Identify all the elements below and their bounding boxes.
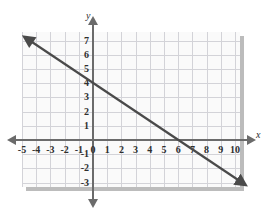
y-tick-label: -3: [75, 178, 89, 188]
x-axis-right-arrow-icon: [247, 135, 256, 145]
grid-line-horizontal: [22, 83, 240, 84]
y-axis-bottom-arrow-icon: [88, 199, 98, 208]
grid-line-horizontal: [22, 55, 240, 56]
grid-line-horizontal: [22, 97, 240, 98]
x-axis-label: x: [256, 130, 260, 140]
y-axis-line: [92, 24, 94, 200]
grid-line-horizontal: [22, 126, 240, 127]
y-tick-label: 5: [75, 64, 89, 74]
y-tick-label: 1: [75, 121, 89, 131]
coordinate-plane-figure: x y -5-4-3-2-1012345678910 7654321-1-2-3: [0, 0, 268, 211]
y-tick-label: 4: [75, 78, 89, 88]
y-tick-label: -2: [75, 163, 89, 173]
grid-line-horizontal: [22, 41, 240, 42]
y-tick-label: 7: [75, 36, 89, 46]
plot-panel: [22, 32, 240, 187]
y-axis-label: y: [86, 11, 90, 21]
y-tick-label: -1: [75, 149, 89, 159]
x-axis-line: [14, 139, 252, 141]
grid-line-horizontal: [22, 69, 240, 70]
y-tick-label: 6: [75, 50, 89, 60]
grid-line-horizontal: [22, 112, 240, 113]
y-tick-label: 2: [75, 107, 89, 117]
x-axis-left-arrow-icon: [7, 135, 16, 145]
x-tick-label: 10: [227, 145, 243, 155]
grid-line-horizontal: [22, 183, 240, 184]
y-tick-label: 3: [75, 92, 89, 102]
grid-line-horizontal: [22, 168, 240, 169]
